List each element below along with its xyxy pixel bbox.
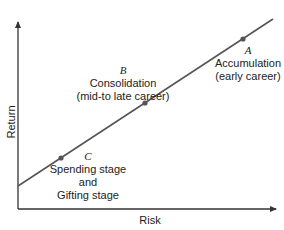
stage-c-title: Spending stage (44, 163, 132, 176)
point-a (240, 36, 245, 41)
stage-b-letter: B (60, 64, 186, 77)
stage-a-letter: A (212, 44, 284, 57)
stage-c-and: and (44, 176, 132, 189)
stage-c-subtitle: Gifting stage (44, 189, 132, 202)
y-axis-label: Return (5, 97, 17, 147)
stage-a-subtitle: (early career) (212, 70, 284, 83)
stage-a-label: A Accumulation (early career) (212, 44, 284, 83)
stage-b-title: Consolidation (60, 77, 186, 90)
stage-b-label: B Consolidation (mid-to late career) (60, 64, 186, 103)
stage-a-title: Accumulation (212, 57, 284, 70)
stage-c-letter: C (44, 150, 132, 163)
chart-canvas (0, 0, 284, 230)
x-axis-label: Risk (120, 214, 180, 226)
stage-c-label: C Spending stage and Gifting stage (44, 150, 132, 202)
stage-b-subtitle: (mid-to late career) (60, 90, 186, 103)
